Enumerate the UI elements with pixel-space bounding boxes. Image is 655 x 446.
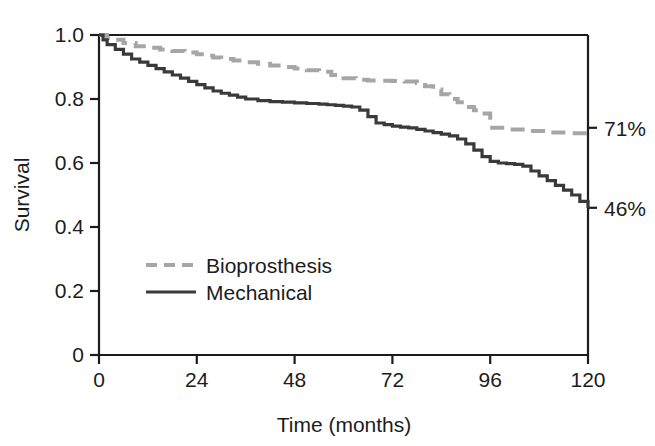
y-tick-label: 0.2 bbox=[55, 279, 84, 302]
series-line-mechanical bbox=[99, 35, 588, 208]
chart-legend: BioprosthesisMechanical bbox=[146, 254, 332, 304]
data-series bbox=[99, 35, 588, 208]
y-tick-label: 0.8 bbox=[55, 87, 84, 110]
y-axis-title: Survival bbox=[10, 158, 33, 233]
x-tick-label: 48 bbox=[283, 368, 306, 391]
x-axis-title: Time (months) bbox=[277, 413, 412, 436]
x-tick-label: 72 bbox=[381, 368, 404, 391]
chart-page: 00.20.40.60.81.0 024487296120 71%46% Bio… bbox=[0, 0, 655, 446]
y-axis: 00.20.40.60.81.0 bbox=[55, 23, 99, 366]
x-axis: 024487296120 bbox=[93, 355, 605, 391]
endpoint-annotations: 71%46% bbox=[604, 117, 646, 220]
y-tick-label: 1.0 bbox=[55, 23, 84, 46]
endpoint-ticks bbox=[588, 128, 597, 208]
y-tick-label: 0.4 bbox=[55, 215, 85, 238]
y-tick-label: 0 bbox=[72, 343, 84, 366]
endpoint-label-46pct: 46% bbox=[604, 197, 646, 220]
survival-curve-chart: 00.20.40.60.81.0 024487296120 71%46% Bio… bbox=[0, 0, 655, 446]
x-tick-label: 0 bbox=[93, 368, 105, 391]
x-tick-label: 96 bbox=[479, 368, 502, 391]
legend-label-mechanical: Mechanical bbox=[206, 281, 312, 304]
y-tick-label: 0.6 bbox=[55, 151, 84, 174]
x-tick-label: 24 bbox=[185, 368, 209, 391]
legend-label-bioprosthesis: Bioprosthesis bbox=[206, 254, 332, 277]
x-tick-label: 120 bbox=[570, 368, 605, 391]
plot-frame bbox=[99, 35, 588, 355]
endpoint-label-71pct: 71% bbox=[604, 117, 646, 140]
series-line-bioprosthesis bbox=[99, 35, 588, 134]
